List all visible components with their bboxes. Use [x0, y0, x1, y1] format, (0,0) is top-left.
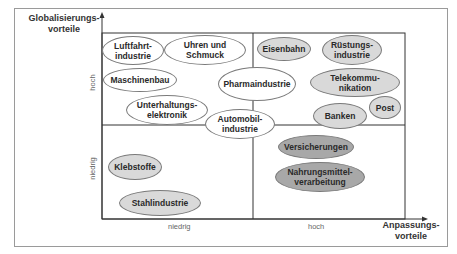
x-axis-title-line1: Anpassungs-	[378, 220, 444, 231]
label-line: Unterhaltungs-	[137, 100, 197, 110]
label-line: Klebstoffe	[114, 162, 156, 172]
ellipse-uhren-und-schmuck: Uhren undSchmuck	[164, 35, 246, 65]
label-line: Maschinenbau	[110, 75, 169, 85]
label-line: Versicherungen	[284, 142, 348, 152]
ellipse-stahlindustrie: Stahlindustrie	[119, 190, 201, 216]
y-axis-title-line2: vorteile	[28, 24, 100, 35]
ellipse-versicherungen: Versicherungen	[278, 135, 354, 159]
label-line: elektronik	[137, 110, 197, 120]
label-line: nikation	[330, 83, 379, 93]
ellipse-eisenbahn: Eisenbahn	[257, 37, 311, 61]
ellipse-luftfahrtindustrie: Luftfahrt-industrie	[102, 36, 164, 65]
label-line: Rüstungs-	[331, 40, 373, 50]
ellipse-banken: Banken	[313, 103, 367, 129]
label-line: Automobil-	[218, 114, 263, 124]
ellipse-telekommunikation: Telekommu-nikation	[310, 68, 400, 97]
label-line: Pharmaindustrie	[223, 79, 290, 89]
x-axis-title-line2: vorteile	[378, 231, 444, 242]
ellipse-unterhaltungselektronik: Unterhaltungs-elektronik	[126, 95, 208, 125]
label-line: verarbeitung	[287, 177, 352, 187]
ellipse-automobilindustrie: Automobil-industrie	[205, 109, 275, 139]
ellipse-maschinenbau: Maschinenbau	[103, 68, 177, 92]
y-axis-title: Globalisierungs- vorteile	[28, 13, 100, 35]
x-axis-title: Anpassungs- vorteile	[378, 220, 444, 242]
x-tick-high: hoch	[308, 222, 324, 231]
label-line: Nahrungsmittel-	[287, 167, 352, 177]
label-line: Stahlindustrie	[132, 198, 189, 208]
ellipse-klebstoffe: Klebstoffe	[108, 154, 162, 180]
label-line: Luftfahrt-	[114, 41, 152, 51]
label-line: Banken	[325, 111, 356, 121]
label-line: Telekommu-	[330, 73, 379, 83]
ellipse-post: Post	[369, 96, 401, 119]
label-line: Eisenbahn	[263, 44, 306, 54]
y-tick-high: hoch	[88, 74, 97, 90]
label-line: Schmuck	[184, 50, 227, 60]
label-line: Post	[376, 103, 394, 113]
ellipse-nahrungsmittelverarbeitung: Nahrungsmittel-verarbeitung	[275, 162, 365, 192]
y-tick-low: niedrig	[88, 157, 97, 180]
label-line: industrie	[218, 124, 263, 134]
label-line: Uhren und	[184, 40, 227, 50]
y-axis-title-line1: Globalisierungs-	[28, 13, 100, 24]
ellipse-pharmaindustrie: Pharmaindustrie	[218, 67, 296, 101]
ellipse-ruestungsindustrie: Rüstungs-industrie	[322, 35, 382, 65]
x-tick-low: niedrig	[168, 222, 191, 231]
label-line: industrie	[114, 51, 152, 61]
label-line: industrie	[331, 50, 373, 60]
